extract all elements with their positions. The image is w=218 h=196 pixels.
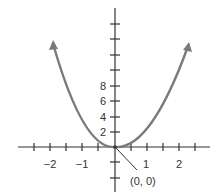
x-label-1: 1 <box>143 158 149 170</box>
origin-pointer-line <box>115 147 137 170</box>
origin-dot <box>113 145 117 149</box>
arrow-up-right-icon <box>183 42 192 52</box>
origin-label: (0, 0) <box>130 175 156 187</box>
arrow-up-left-icon <box>49 40 58 50</box>
y-label-4: 4 <box>100 111 106 123</box>
parabola-graph: −2 −1 1 2 8 6 4 2 (0, 0) <box>0 0 218 196</box>
y-label-6: 6 <box>100 95 106 107</box>
y-label-8: 8 <box>100 80 106 92</box>
x-label-neg1: −1 <box>76 158 89 170</box>
x-label-2: 2 <box>176 158 182 170</box>
parabola-curve <box>54 47 187 147</box>
y-label-2: 2 <box>100 126 106 138</box>
x-label-neg2: −2 <box>44 158 57 170</box>
